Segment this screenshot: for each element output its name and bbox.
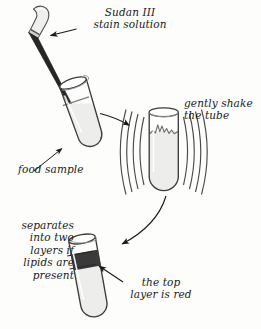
label-gently-shake-the-tube: gently shake the tube <box>184 97 261 122</box>
label-separates-into-two-layers: separates into two layers if lipids are … <box>2 219 74 281</box>
tube-1-liquid <box>50 104 120 164</box>
label-sudan-stain-solution: Sudan III stain solution <box>78 6 182 31</box>
dropper-bulb-icon <box>31 6 49 34</box>
test-tube-2 <box>145 108 185 191</box>
step-1-add-stain-group <box>29 6 121 171</box>
arrow-step2-to-step3 <box>122 196 166 244</box>
label-top-layer-is-red: the top layer is red <box>114 276 208 301</box>
tube-2-rim <box>149 108 178 117</box>
pointer-sudan-stain-arrow <box>51 29 77 36</box>
label-food-sample: food sample <box>18 163 110 175</box>
tube-1-rim <box>58 74 87 91</box>
sudan-iii-lipid-test-figure: Sudan III stain solution gently shake th… <box>0 0 261 329</box>
motion-lines-right <box>184 110 208 195</box>
